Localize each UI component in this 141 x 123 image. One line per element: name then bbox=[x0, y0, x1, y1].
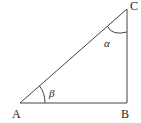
vertex-label-b: B bbox=[121, 107, 129, 121]
angle-arc-beta bbox=[40, 86, 46, 103]
right-triangle-diagram: C A B α β bbox=[0, 0, 141, 123]
angle-label-beta: β bbox=[48, 87, 55, 99]
triangle bbox=[20, 9, 127, 103]
side-ac-hypotenuse bbox=[20, 9, 127, 103]
vertex-label-c: C bbox=[130, 0, 138, 13]
vertex-label-a: A bbox=[12, 107, 21, 121]
angle-label-alpha: α bbox=[104, 37, 110, 49]
angle-arc-alpha bbox=[108, 26, 128, 33]
